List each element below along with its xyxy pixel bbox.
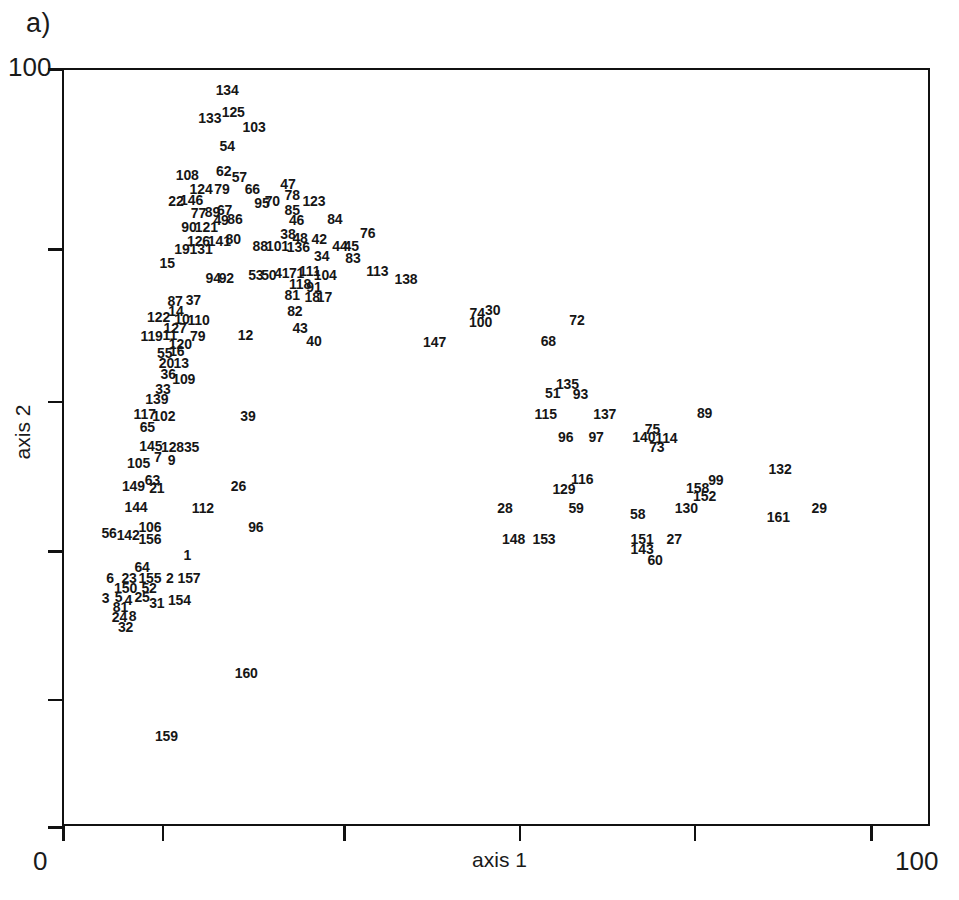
scatter-point-label: 19 [174,242,189,256]
scatter-point-label: 97 [588,430,603,444]
scatter-point-label: 101 [266,239,289,253]
y-axis-tick [48,248,63,251]
scatter-point-label: 15 [160,256,175,270]
scatter-point-label: 134 [216,83,239,97]
scatter-point-label: 83 [345,251,360,265]
scatter-point-label: 9 [168,453,176,467]
scatter-point-label: 54 [219,139,234,153]
scatter-point-label: 80 [226,232,241,246]
scatter-point-label: 59 [568,501,583,515]
scatter-point-label: 32 [118,620,133,634]
y-axis-tick [48,699,63,702]
scatter-point-label: 7 [154,450,162,464]
scatter-point-label: 60 [647,553,662,567]
scatter-point-label: 86 [227,212,242,226]
scatter-point-label: 26 [231,479,246,493]
scatter-point-label: 153 [532,532,555,546]
scatter-point-label: 56 [101,526,116,540]
scatter-point-label: 108 [176,168,199,182]
scatter-point-label: 103 [243,120,266,134]
scatter-point-label: 79 [214,182,229,196]
scatter-point-label: 109 [172,372,195,386]
scatter-point-label: 154 [168,593,191,607]
y-axis-title: axis 2 [11,352,35,512]
scatter-point-label: 129 [552,482,575,496]
scatter-point-label: 138 [394,272,417,286]
scatter-point-label: 31 [149,596,164,610]
scatter-point-label: 110 [187,313,209,327]
scatter-point-label: 131 [190,242,213,256]
scatter-point-label: 46 [289,213,304,227]
y-axis-max-label: 100 [8,52,51,83]
scatter-point-label: 41 [274,266,289,280]
y-axis-tick [48,68,63,71]
scatter-point-label: 100 [469,315,492,329]
scatter-point-label: 35 [184,440,199,454]
scatter-point-label: 28 [497,501,512,515]
scatter-point-label: 139 [145,392,168,406]
scatter-point-label: 62 [216,164,231,178]
scatter-point-label: 96 [248,520,263,534]
x-axis-tick [62,826,65,841]
scatter-point-label: 73 [649,440,664,454]
scatter-point-label: 68 [541,334,556,348]
scatter-point-label: 96 [558,430,573,444]
scatter-point-label: 34 [314,249,329,263]
scatter-point-label: 78 [285,188,300,202]
scatter-point-label: 149 [122,479,145,493]
scatter-point-label: 3 [102,591,110,605]
scatter-point-label: 137 [593,407,616,421]
scatter-point-label: 147 [423,335,446,349]
scatter-point-label: 76 [360,226,375,240]
scatter-point-label: 79 [190,329,205,343]
scatter-point-label: 133 [198,111,221,125]
scatter-point-label: 148 [502,532,525,546]
scatter-point-label: 51 [545,386,560,400]
scatter-point-label: 123 [302,194,325,208]
x-axis-title: axis 1 [0,848,959,872]
scatter-point-label: 81 [285,288,300,302]
y-axis-tick [48,550,63,553]
scatter-point-label: 144 [125,500,148,514]
scatter-point-label: 40 [306,334,321,348]
scatter-point-label: 161 [767,510,790,524]
scatter-point-label: 119 [141,329,163,343]
scatter-point-label: 156 [138,532,161,546]
panel-label: a) [26,8,51,39]
scatter-point-label: 72 [569,313,584,327]
scatter-point-label: 12 [238,328,253,342]
plot-frame: 1341331251035410862571247966472214695707… [62,68,930,826]
scatter-point-label: 157 [177,571,200,585]
scatter-point-label: 82 [287,304,302,318]
scatter-point-label: 160 [235,666,258,680]
x-axis-tick [694,826,697,841]
scatter-point-label: 42 [312,232,327,246]
scatter-point-label: 112 [192,501,214,515]
x-axis-tick [519,826,522,841]
scatter-point-label: 136 [287,240,310,254]
x-axis-tick [343,826,346,841]
scatter-point-label: 115 [535,407,557,421]
scatter-point-label: 21 [149,481,164,495]
scatter-point-label: 159 [155,729,178,743]
scatter-point-label: 84 [327,212,342,226]
scatter-point-label: 70 [265,194,280,208]
scatter-point-label: 105 [127,456,150,470]
scatter-point-label: 130 [675,501,698,515]
scatter-point-label: 27 [667,532,682,546]
scatter-point-label: 37 [186,293,201,307]
scatter-point-label: 2 [166,571,174,585]
scatter-point-label: 89 [697,406,712,420]
scatter-point-label: 142 [117,528,140,542]
y-axis-tick [48,826,63,829]
scatter-point-label: 29 [811,501,826,515]
scatter-point-label: 125 [222,105,245,119]
y-axis-tick [48,401,63,404]
scatter-point-label: 1 [183,548,191,562]
scatter-point-label: 25 [134,590,149,604]
figure-panel: a) 100 0 100 axis 1 axis 2 1341331251035… [0,0,959,900]
scatter-point-label: 113 [366,264,388,278]
scatter-point-label: 93 [573,387,588,401]
scatter-point-label: 17 [317,290,332,304]
scatter-point-label: 99 [708,473,723,487]
